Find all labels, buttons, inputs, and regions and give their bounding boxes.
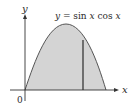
area-under-curve-diagram: y x 0 y = sin x cos x	[0, 0, 132, 111]
y-axis-label: y	[21, 3, 28, 14]
origin-label: 0	[17, 95, 23, 105]
equation-eq: = sin	[60, 11, 89, 21]
y-axis-arrow-icon	[23, 14, 27, 19]
equation-x2: x	[115, 11, 120, 21]
equation-mid: cos	[95, 11, 116, 21]
x-axis-label: x	[122, 84, 128, 95]
x-axis-arrow-icon	[114, 88, 119, 92]
equation-label: y = sin x cos x	[54, 11, 120, 21]
